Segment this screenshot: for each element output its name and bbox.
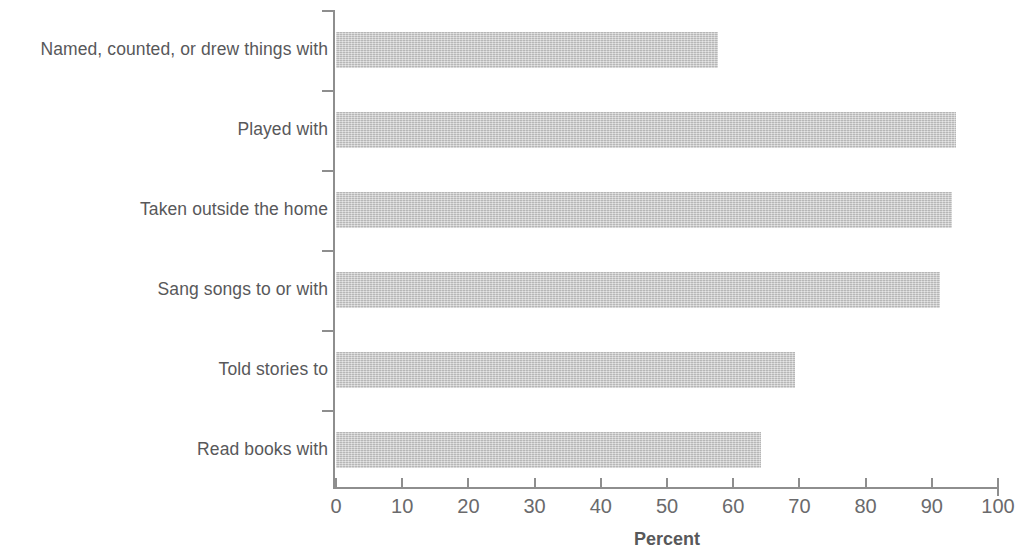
x-axis-tick-label: 20: [457, 496, 479, 516]
x-axis-tick-label: 0: [330, 496, 341, 516]
x-axis-title: Percent: [634, 529, 700, 550]
x-axis-tick-label: 10: [391, 496, 413, 516]
y-axis-tick: [322, 250, 334, 252]
x-axis-tick: [732, 478, 734, 488]
bar: [336, 352, 795, 388]
x-axis-tick: [335, 478, 337, 488]
x-axis-tick-label: 50: [656, 496, 678, 516]
bar-row: Read books with: [0, 410, 1026, 490]
x-axis-tick-label: 30: [523, 496, 545, 516]
bar-row: Played with: [0, 90, 1026, 170]
x-axis-tick: [931, 478, 933, 488]
category-label: Told stories to: [219, 361, 328, 379]
bar-row: Sang songs to or with: [0, 250, 1026, 330]
category-label: Played with: [237, 121, 328, 139]
bar: [336, 192, 952, 228]
category-label: Read books with: [197, 441, 328, 459]
bar-chart-figure: Named, counted, or drew things withPlaye…: [0, 0, 1026, 552]
bar: [336, 32, 718, 68]
x-axis-tick: [666, 478, 668, 488]
bar-row: Taken outside the home: [0, 170, 1026, 250]
bar-row: Told stories to: [0, 330, 1026, 410]
y-axis-tick-top: [322, 10, 334, 12]
category-label: Sang songs to or with: [158, 281, 328, 299]
x-axis-tick-label: 90: [921, 496, 943, 516]
x-axis-tick-label: 70: [788, 496, 810, 516]
x-axis-tick-label: 80: [854, 496, 876, 516]
bar: [336, 272, 940, 308]
x-axis-tick: [467, 478, 469, 488]
category-label: Taken outside the home: [140, 201, 328, 219]
bar: [336, 432, 761, 468]
y-axis-tick: [322, 330, 334, 332]
x-axis-tick-label: 40: [590, 496, 612, 516]
x-axis-tick-label: 60: [722, 496, 744, 516]
x-axis-tick: [534, 478, 536, 488]
x-axis-tick-label: 100: [981, 496, 1014, 516]
category-label: Named, counted, or drew things with: [40, 41, 328, 59]
x-axis-tick: [798, 478, 800, 488]
y-axis-tick: [322, 90, 334, 92]
y-axis-tick: [322, 170, 334, 172]
x-axis-tick: [865, 478, 867, 488]
x-axis-tick: [997, 478, 999, 488]
x-axis-tick: [600, 478, 602, 488]
bar-row: Named, counted, or drew things with: [0, 10, 1026, 90]
y-axis-tick: [322, 410, 334, 412]
x-axis-tick: [401, 478, 403, 488]
bar: [336, 112, 956, 148]
